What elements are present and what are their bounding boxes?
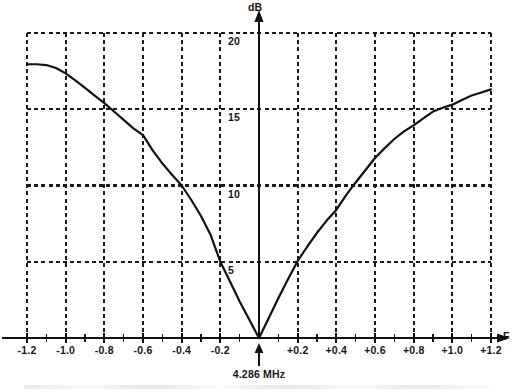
y-tick-label: 20: [228, 35, 240, 47]
x-tick-label: +0.6: [364, 344, 386, 356]
x-tick-label: +1.2: [480, 344, 502, 356]
annotation-arrow-group: [255, 343, 264, 366]
x-tick-label: +0.2: [287, 344, 309, 356]
chart-plot-area: [0, 0, 522, 390]
x-tick-label: -1.0: [56, 344, 75, 356]
x-axis-label: F: [503, 330, 509, 342]
x-tick-label: +1.0: [442, 344, 464, 356]
x-tick-label: -0.8: [95, 344, 114, 356]
y-axis-label: dB: [248, 1, 262, 13]
x-tick-label: +0.4: [326, 344, 348, 356]
axis-lines: [2, 10, 510, 343]
center-frequency-annotation-label: 4.286 MHz: [233, 368, 286, 380]
y-tick-label: 15: [228, 111, 240, 123]
center-frequency-marker-arrow-icon: [255, 343, 264, 366]
y-tick-label: 5: [228, 264, 234, 276]
y-tick-label: 10: [228, 188, 240, 200]
page-scan-artifact: [24, 385, 494, 389]
x-tick-label: -0.4: [172, 344, 191, 356]
chart-figure: dB F -1.2-1.0-0.8-0.6-0.4-0.2+0.2+0.4+0.…: [0, 0, 522, 390]
x-tick-label: -0.6: [134, 344, 153, 356]
x-tick-label: -1.2: [18, 344, 37, 356]
x-tick-label: +0.8: [403, 344, 425, 356]
x-tick-label: -0.2: [211, 344, 230, 356]
